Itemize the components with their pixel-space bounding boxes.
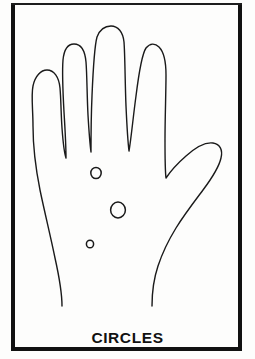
border-top xyxy=(11,3,242,5)
figure-caption: CIRCLES xyxy=(0,329,255,346)
border-bottom xyxy=(11,347,242,351)
hand-figure-illustration xyxy=(0,0,255,359)
figure-page: CIRCLES xyxy=(0,0,255,359)
border-left xyxy=(11,3,15,351)
border-right xyxy=(238,3,242,351)
